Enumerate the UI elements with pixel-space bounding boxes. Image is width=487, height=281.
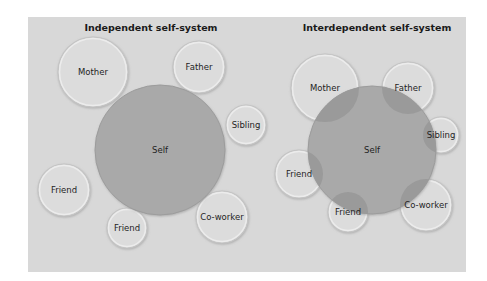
bubble-label: Sibling [232,120,261,130]
bubble-label: Friend [286,169,312,179]
bubble-label: Friend [51,185,77,195]
bubble-label: Co-worker [200,212,244,222]
self-system-diagram: Independent self-systemSelfMotherFatherS… [0,0,487,281]
bubble-label: Father [186,62,213,72]
bubble-label: Father [395,83,422,93]
bubble-label: Sibling [427,130,456,140]
bubble-label: Friend [114,223,140,233]
bubble-label: Co-worker [404,200,448,210]
self-label: Self [364,145,381,155]
diagram-title: Interdependent self-system [303,22,452,33]
self-label: Self [152,145,169,155]
diagram-title: Independent self-system [84,22,217,33]
bubble-label: Friend [335,207,361,217]
bubble-label: Mother [310,83,340,93]
bubble-label: Mother [78,67,108,77]
